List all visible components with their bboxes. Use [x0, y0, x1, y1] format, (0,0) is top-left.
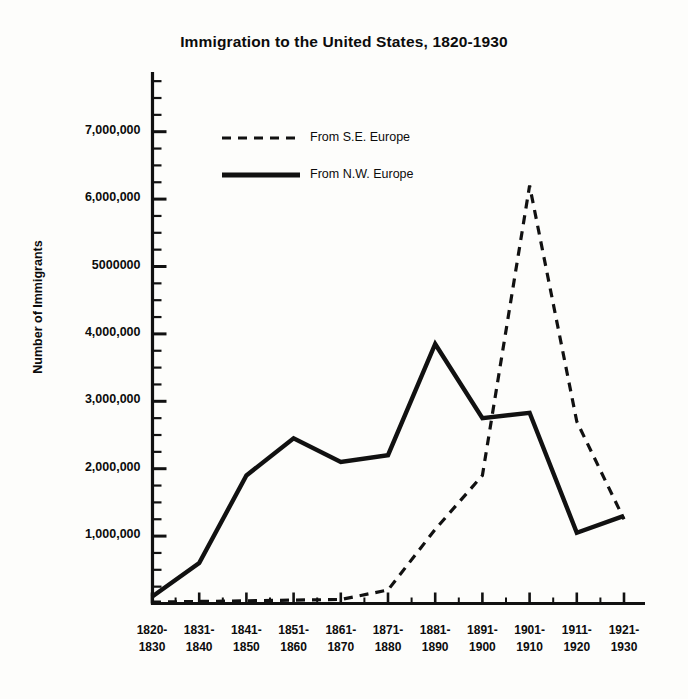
axes: [151, 72, 645, 605]
y-tick-label: 6,000,000: [41, 190, 141, 204]
data-series-group: [152, 186, 624, 603]
series-line-se-europe: [152, 186, 624, 603]
y-tick-label: 2,000,000: [41, 460, 141, 474]
plot-area: [0, 0, 688, 699]
y-tick-label: 3,000,000: [41, 392, 141, 406]
chart-figure: Immigration to the United States, 1820-1…: [0, 0, 688, 699]
legend-label-nw-europe: From N.W. Europe: [310, 167, 414, 181]
x-tick-label-end: 1930: [594, 639, 654, 656]
y-tick-label: 5000000: [41, 258, 141, 272]
y-tick-label: 1,000,000: [41, 527, 141, 541]
y-tick-label: 7,000,000: [41, 123, 141, 137]
y-axis-ticks: [153, 81, 167, 587]
legend-sample-lines: [222, 138, 300, 175]
series-line-nw-europe: [152, 344, 624, 597]
x-tick-label: 1921-1930: [594, 622, 654, 656]
y-tick-label: 4,000,000: [41, 325, 141, 339]
x-tick-label-start: 1921-: [594, 622, 654, 639]
legend-label-se-europe: From S.E. Europe: [310, 130, 410, 144]
